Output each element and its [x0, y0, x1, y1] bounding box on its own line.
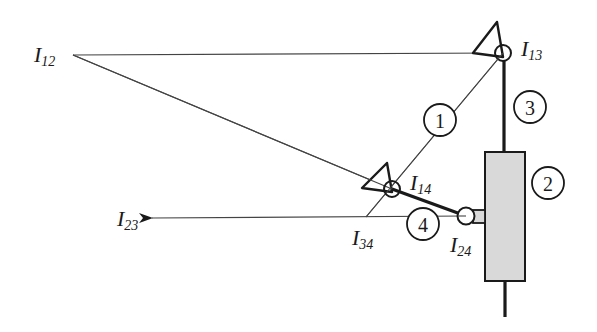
label-i12: I12 [33, 42, 55, 69]
svg-text:2: 2 [543, 173, 553, 195]
link-label-3: 3 [514, 91, 546, 123]
slider-block [485, 152, 525, 281]
label-i13: I13 [520, 36, 542, 63]
svg-text:3: 3 [525, 97, 535, 119]
line-i12-i13 [73, 53, 500, 55]
svg-text:4: 4 [418, 214, 428, 236]
link-label-2: 2 [532, 167, 564, 199]
label-i23: I23 [116, 206, 138, 233]
link-label-4: 4 [407, 208, 439, 240]
link-label-1: 1 [424, 104, 456, 136]
label-i24: I24 [449, 232, 471, 259]
instant-center-diagram: 1 2 3 4 I12 I13 I14 I23 I24 I34 [0, 0, 597, 332]
label-i34: I34 [351, 225, 373, 252]
svg-text:1: 1 [435, 110, 445, 132]
label-i14: I14 [409, 170, 431, 197]
